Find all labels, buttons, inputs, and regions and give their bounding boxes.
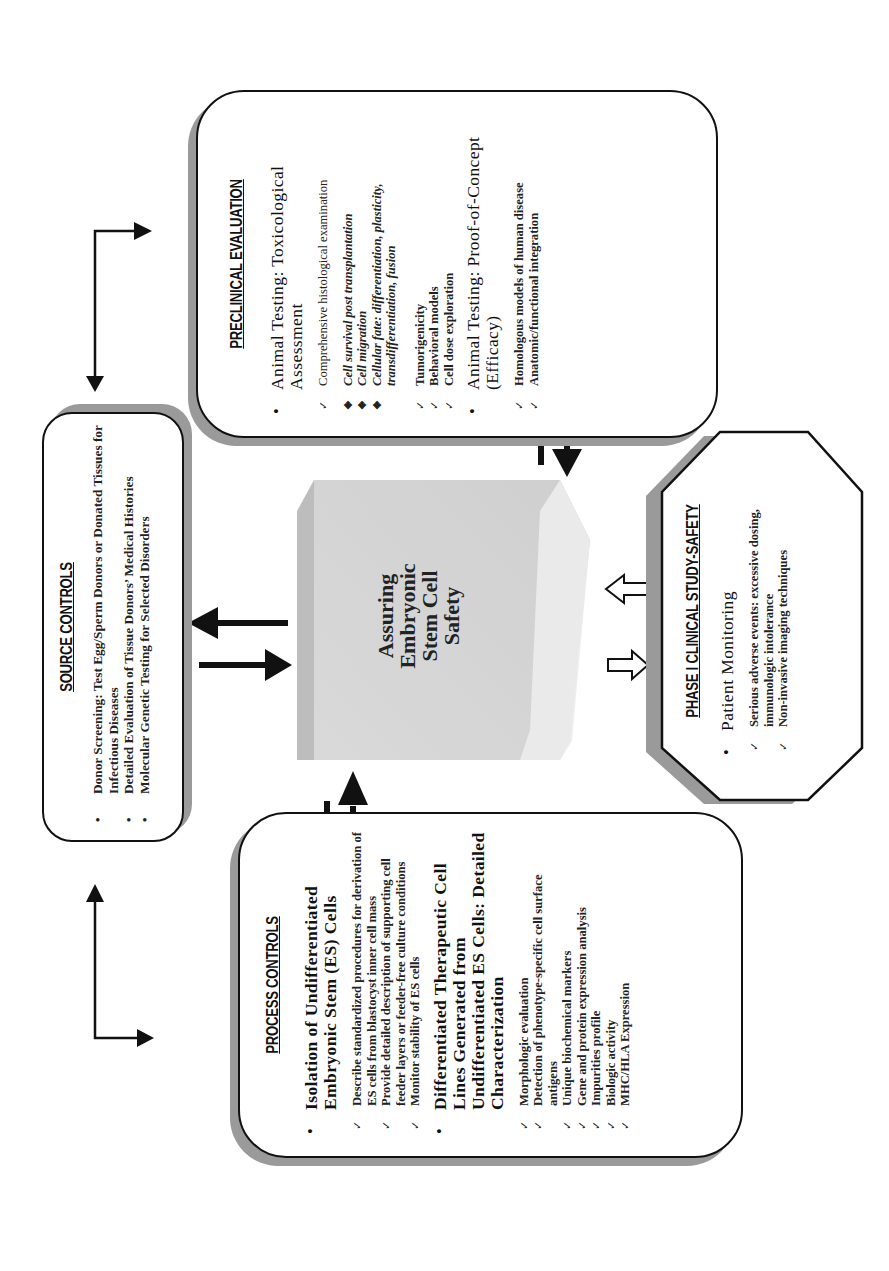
list-item: Detection of phenotype-specific cell sur… — [531, 828, 560, 1132]
phase1-center-arrows — [606, 575, 648, 679]
section-heading: Animal Testing: Proof-of-Concept (Effica… — [464, 110, 502, 390]
phase1-sections: Patient Monitoring Serious adverse event… — [718, 457, 791, 759]
check-list: Morphologic evaluation Detection of phen… — [517, 828, 633, 1132]
arrow-left-icon — [86, 376, 104, 392]
list-item: Provide detailed description of supporti… — [379, 828, 408, 1132]
arrow-up-icon — [188, 607, 218, 639]
process-controls-box: PROCESS CONTROLS Isolation of Undifferen… — [238, 812, 743, 1158]
list-item: Monitor stability of ES cells — [408, 828, 423, 1132]
phase1-title: PHASE I CLINICAL STUDY-SAFETY — [684, 480, 702, 742]
diagram-canvas: Assuring Embryonic Stem Cell Safety SOUR… — [0, 0, 889, 1271]
list-item: Cell dose exploration — [442, 110, 457, 412]
arrow-down-icon — [134, 222, 152, 240]
preclinical-evaluation-title: PRECLINICAL EVALUATION — [228, 123, 246, 405]
list-item: MHC/HLA Expression — [618, 828, 633, 1132]
list-item: Cellular fate: differentiation, plastici… — [370, 110, 399, 412]
list-item: Donor Screening: Test Egg/Sperm Donors o… — [90, 424, 121, 828]
phase1-box: PHASE I CLINICAL STUDY-SAFETY Patient Mo… — [672, 451, 799, 771]
arrow-right-icon — [86, 884, 104, 902]
arrow-right-icon — [338, 771, 368, 805]
source-center-arrows — [188, 607, 292, 681]
source-preclinical-connector — [86, 222, 152, 392]
center-title-line: Safety — [441, 521, 463, 711]
center-title-line: Assuring — [375, 521, 397, 711]
check-list: Homologous models of human disease Anato… — [512, 110, 541, 412]
list-item: Behavioral models — [427, 110, 442, 412]
check-list: Describe standardized procedures for der… — [350, 828, 423, 1132]
diagram-stage-rotated: Assuring Embryonic Stem Cell Safety SOUR… — [0, 0, 889, 1271]
list-item: Biologic activity — [604, 828, 619, 1132]
source-controls-box: SOURCE CONTROLS Donor Screening: Test Eg… — [42, 412, 184, 842]
center-title: Assuring Embryonic Stem Cell Safety — [375, 521, 463, 711]
list-item: Serious adverse events: excessive dosing… — [747, 457, 776, 753]
section-toxicological: Animal Testing: Toxicological Assessment… — [268, 110, 456, 418]
process-controls-title: PROCESS CONTROLS — [264, 845, 282, 1125]
preclinical-evaluation-box: PRECLINICAL EVALUATION Animal Testing: T… — [196, 90, 718, 438]
list-item: Detailed Evaluation of Tissue Donors’ Me… — [121, 424, 137, 828]
section-heading: Animal Testing: Toxicological Assessment — [268, 110, 306, 390]
list-item: Anatomic/functional integration — [527, 110, 542, 412]
source-controls-title: SOURCE CONTROLS — [58, 452, 76, 801]
process-sections: Isolation of Undifferentiated Embryonic … — [302, 828, 633, 1138]
section-differentiated: Differentiated Therapeutic Cell Lines Ge… — [431, 828, 633, 1138]
list-item: Gene and protein expression analysis — [575, 828, 590, 1132]
check-list: Tumorigenicity Behavioral models Cell do… — [413, 110, 457, 412]
list-item: Tumorigenicity — [413, 110, 428, 412]
source-process-connector — [86, 884, 154, 1047]
section-patient-monitoring: Patient Monitoring Serious adverse event… — [718, 457, 791, 759]
list-item: Non-invasive imaging techniques — [776, 457, 791, 753]
center-title-line: Stem Cell — [419, 521, 441, 711]
arrow-left-icon — [552, 449, 582, 477]
section-heading: Isolation of Undifferentiated Embryonic … — [302, 828, 340, 1110]
section-heading: Differentiated Therapeutic Cell Lines Ge… — [431, 828, 507, 1110]
list-item: Comprehensive histological examination — [316, 110, 331, 412]
list-item: Molecular Genetic Testing for Selected D… — [137, 424, 153, 828]
list-item: Impurities profile — [589, 828, 604, 1132]
section-isolation: Isolation of Undifferentiated Embryonic … — [302, 828, 423, 1138]
center-title-line: Embryonic — [397, 521, 419, 711]
check-list: Serious adverse events: excessive dosing… — [747, 457, 791, 753]
list-item: Homologous models of human disease — [512, 110, 527, 412]
list-item: Morphologic evaluation — [517, 828, 532, 1132]
arrow-down-icon — [265, 649, 292, 681]
section-heading: Patient Monitoring — [718, 457, 737, 731]
list-item: Cell survival post transplantation — [341, 110, 356, 412]
hollow-arrow-down-icon — [608, 651, 648, 679]
list-item: Describe standardized procedures for der… — [350, 828, 379, 1132]
slab-top-face — [297, 480, 314, 760]
sub-item-list: Cell survival post transplantation Cell … — [341, 110, 399, 412]
arrow-down-icon — [137, 1029, 154, 1047]
check-list: Comprehensive histological examination — [316, 110, 331, 412]
preclinical-sections: Animal Testing: Toxicological Assessment… — [268, 110, 541, 418]
hollow-arrow-up-icon — [606, 575, 648, 603]
list-item: Unique biochemical markers — [560, 828, 575, 1132]
list-item: Cell migration — [355, 110, 370, 412]
section-proof-of-concept: Animal Testing: Proof-of-Concept (Effica… — [464, 110, 541, 418]
source-controls-list: Donor Screening: Test Egg/Sperm Donors o… — [90, 414, 152, 840]
